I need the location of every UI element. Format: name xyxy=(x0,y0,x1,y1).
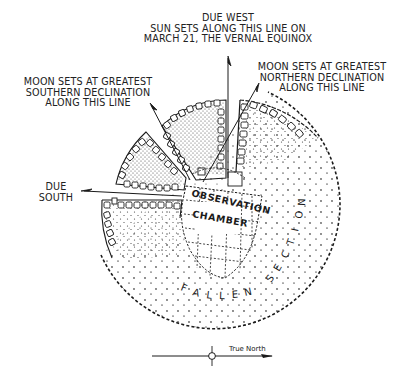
label-due-west-line1: DUE WEST xyxy=(128,13,328,24)
label-due-south-line1: DUE xyxy=(34,182,78,193)
svg-text:L: L xyxy=(219,290,225,301)
label-moon-southern: MOON SETS AT GREATEST SOUTHERN DECLINATI… xyxy=(14,77,162,109)
label-due-south: DUE SOUTH xyxy=(34,182,78,203)
label-moon-southern-line1: MOON SETS AT GREATEST xyxy=(14,77,162,88)
north-arrowhead-icon xyxy=(261,354,273,358)
svg-text:E: E xyxy=(231,289,238,300)
label-due-south-line2: SOUTH xyxy=(34,193,78,204)
compass-marker-icon xyxy=(209,353,216,360)
label-moon-northern: MOON SETS AT GREATEST NORTHERN DECLINATI… xyxy=(248,62,396,94)
svg-text:O: O xyxy=(293,210,305,219)
label-due-west-line3: MARCH 21, THE VERNAL EQUINOX xyxy=(128,34,328,45)
label-moon-northern-line3: ALONG THIS LINE xyxy=(248,83,396,94)
observatory-plan-diagram: OBSERVATION CHAMBER F A L L E N S E C T … xyxy=(0,0,407,377)
true-north-indicator: True North xyxy=(152,345,273,366)
label-moon-southern-line3: ALONG THIS LINE xyxy=(14,98,162,109)
label-due-west: DUE WEST SUN SETS ALONG THIS LINE ON MAR… xyxy=(128,13,328,45)
svg-text:N: N xyxy=(296,198,307,206)
label-moon-northern-line1: MOON SETS AT GREATEST xyxy=(248,62,396,73)
true-north-label: True North xyxy=(228,345,266,353)
